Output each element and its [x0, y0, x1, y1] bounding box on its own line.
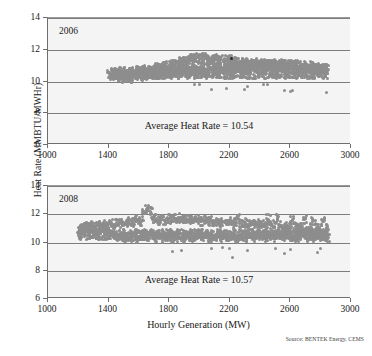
x-tick-2600 — [289, 298, 290, 302]
scatter-point — [283, 89, 286, 92]
x-tick-1400 — [108, 298, 109, 302]
x-tick-3000 — [350, 144, 351, 148]
x-tick-1000 — [47, 298, 48, 302]
x-tick-label-2200: 2200 — [219, 304, 238, 314]
scatter-point — [228, 247, 231, 250]
scatter-point — [324, 75, 327, 78]
scatter-point — [262, 83, 265, 86]
y-tick-label-12: 12 — [31, 208, 41, 218]
scatter-point — [314, 219, 317, 222]
x-tick-1800 — [168, 298, 169, 302]
scatter-point — [186, 77, 189, 80]
scatter-point — [153, 214, 156, 217]
x-tick-label-3000: 3000 — [341, 304, 360, 314]
scatter-point — [316, 251, 319, 254]
x-tick-label-1400: 1400 — [98, 150, 117, 160]
x-tick-label-1400: 1400 — [98, 304, 117, 314]
scatter-point — [79, 238, 82, 241]
scatter-point — [198, 83, 201, 86]
average-heat-rate-annotation-2008: Average Heat Rate = 10.57 — [48, 274, 350, 285]
scatter-point — [234, 240, 237, 243]
y-tick-label-14: 14 — [31, 12, 41, 22]
scatter-point — [155, 240, 158, 243]
figure-scatter-heat-rate: Heat Rate (MMBTU/MWHr) 2006 Average Heat… — [0, 0, 372, 356]
x-tick-3000 — [350, 298, 351, 302]
scatter-point — [289, 248, 292, 251]
x-tick-label-1800: 1800 — [159, 304, 178, 314]
scatter-point — [328, 240, 331, 243]
scatter-point — [140, 224, 143, 227]
scatter-point — [273, 240, 276, 243]
scatter-point — [210, 215, 213, 218]
y-tick-12 — [43, 49, 47, 50]
x-tick-1000 — [47, 144, 48, 148]
scatter-point — [304, 217, 307, 220]
scatter-point — [319, 247, 322, 250]
scatter-point — [257, 76, 260, 79]
gridline-y-14 — [48, 186, 350, 187]
scatter-point — [278, 76, 281, 79]
y-tick-label-10: 10 — [31, 76, 41, 86]
scatter-point — [266, 83, 269, 86]
scatter-point — [320, 223, 323, 226]
panel-2008: 2008 Average Heat Rate = 10.57 681012141… — [47, 185, 350, 298]
scatter-point — [246, 85, 249, 88]
y-tick-14 — [43, 17, 47, 18]
x-tick-2200 — [229, 298, 230, 302]
scatter-point — [180, 249, 183, 252]
panel-year-label-2006: 2006 — [59, 26, 78, 36]
x-tick-2200 — [229, 144, 230, 148]
y-tick-10 — [43, 242, 47, 243]
x-tick-label-1800: 1800 — [159, 150, 178, 160]
scatter-point — [327, 228, 330, 231]
x-tick-1800 — [168, 144, 169, 148]
x-tick-label-1000: 1000 — [38, 150, 57, 160]
scatter-point — [276, 214, 279, 217]
scatter-point — [193, 83, 196, 86]
scatter-point — [292, 217, 295, 220]
scatter-point — [98, 223, 101, 226]
y-tick-label-8: 8 — [35, 107, 40, 117]
y-tick-label-6: 6 — [35, 293, 40, 303]
gridline-y-12 — [48, 50, 350, 51]
x-tick-label-2200: 2200 — [219, 150, 238, 160]
panel-year-label-2008: 2008 — [59, 194, 78, 204]
scatter-point — [274, 247, 277, 250]
scatter-point — [288, 76, 291, 79]
scatter-point — [210, 247, 213, 250]
scatter-point — [210, 88, 213, 91]
y-tick-8 — [43, 112, 47, 113]
scatter-point — [138, 218, 141, 221]
y-tick-label-12: 12 — [31, 44, 41, 54]
x-tick-label-2600: 2600 — [280, 150, 299, 160]
plot-area-2008: 2008 Average Heat Rate = 10.57 — [47, 185, 350, 298]
scatter-point — [171, 250, 174, 253]
y-tick-label-14: 14 — [31, 180, 41, 190]
y-tick-14 — [43, 185, 47, 186]
y-tick-label-8: 8 — [35, 265, 40, 275]
gridline-y-10 — [48, 243, 350, 244]
scatter-point — [221, 246, 224, 249]
scatter-point — [325, 91, 328, 94]
scatter-point — [317, 228, 320, 231]
scatter-point — [246, 249, 249, 252]
scatter-point — [151, 207, 154, 210]
scatter-point — [235, 216, 238, 219]
plot-area-2006: 2006 Average Heat Rate = 10.54 — [47, 17, 350, 144]
scatter-point — [299, 238, 302, 241]
scatter-point — [243, 88, 246, 91]
y-tick-10 — [43, 81, 47, 82]
x-tick-label-2600: 2600 — [280, 304, 299, 314]
x-tick-label-3000: 3000 — [341, 150, 360, 160]
scatter-point — [305, 221, 308, 224]
scatter-point — [311, 223, 314, 226]
scatter-point — [291, 89, 294, 92]
x-tick-2600 — [289, 144, 290, 148]
y-tick-label-10: 10 — [31, 237, 41, 247]
scatter-point — [141, 215, 144, 218]
scatter-point — [220, 223, 223, 226]
scatter-point — [126, 220, 129, 223]
source-note: Source: BENTEK Energy, CEMS — [286, 336, 364, 342]
scatter-point — [283, 252, 286, 255]
x-tick-1400 — [108, 144, 109, 148]
